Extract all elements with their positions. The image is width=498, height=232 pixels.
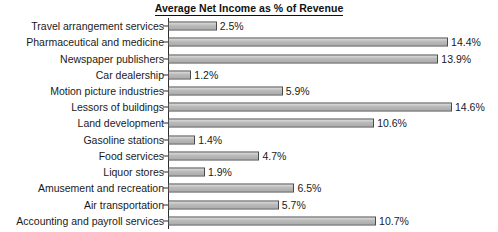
category-label: Car dealership bbox=[96, 69, 164, 80]
bar bbox=[168, 87, 283, 96]
chart-row: Liquor stores1.9% bbox=[0, 164, 498, 180]
chart-row: Pharmaceutical and medicine14.4% bbox=[0, 34, 498, 50]
bar-value-label: 2.5% bbox=[220, 21, 244, 32]
chart-title-text: Average Net Income as % of Revenue bbox=[155, 2, 344, 16]
chart-row: Gasoline stations1.4% bbox=[0, 132, 498, 148]
bar-value-label: 10.6% bbox=[377, 118, 407, 129]
chart-row: Motion picture industries5.9% bbox=[0, 83, 498, 99]
chart-row: Lessors of buildings14.6% bbox=[0, 99, 498, 115]
category-label: Pharmaceutical and medicine bbox=[26, 37, 164, 48]
chart-row: Air transportation5.7% bbox=[0, 197, 498, 213]
chart-row: Land development10.6% bbox=[0, 115, 498, 131]
category-label: Lessors of buildings bbox=[71, 102, 164, 113]
plot-area: Travel arrangement services2.5%Pharmaceu… bbox=[0, 18, 498, 230]
bar bbox=[168, 119, 374, 128]
chart-row: Travel arrangement services2.5% bbox=[0, 18, 498, 34]
bar-value-label: 6.5% bbox=[297, 183, 321, 194]
bar-group: 4.7% bbox=[168, 151, 286, 160]
bar-group: 1.2% bbox=[168, 70, 218, 79]
chart-row: Accounting and payroll services10.7% bbox=[0, 213, 498, 229]
category-label: Food services bbox=[99, 150, 164, 161]
bar-value-label: 1.9% bbox=[208, 167, 232, 178]
bar bbox=[168, 168, 205, 177]
bar bbox=[168, 70, 191, 79]
bar bbox=[168, 54, 438, 63]
bar-group: 1.4% bbox=[168, 135, 222, 144]
bar bbox=[168, 38, 448, 47]
bar-value-label: 4.7% bbox=[262, 150, 286, 161]
bar bbox=[168, 216, 376, 225]
bar bbox=[168, 103, 452, 112]
bar-value-label: 1.2% bbox=[194, 69, 218, 80]
chart-row: Food services4.7% bbox=[0, 148, 498, 164]
category-label: Accounting and payroll services bbox=[16, 215, 164, 226]
bar-group: 5.7% bbox=[168, 200, 306, 209]
bar bbox=[168, 151, 259, 160]
category-label: Amusement and recreation bbox=[38, 183, 164, 194]
chart-title: Average Net Income as % of Revenue bbox=[0, 2, 498, 14]
bar bbox=[168, 22, 217, 31]
chart-container: Average Net Income as % of Revenue Trave… bbox=[0, 0, 498, 232]
bar-group: 14.6% bbox=[168, 103, 485, 112]
bar bbox=[168, 200, 279, 209]
bar-group: 6.5% bbox=[168, 184, 321, 193]
bar-group: 1.9% bbox=[168, 168, 232, 177]
bar-value-label: 13.9% bbox=[441, 53, 471, 64]
category-label: Land development bbox=[78, 118, 164, 129]
category-label: Liquor stores bbox=[103, 167, 164, 178]
category-label: Motion picture industries bbox=[50, 86, 164, 97]
bar-group: 10.6% bbox=[168, 119, 407, 128]
bar-group: 2.5% bbox=[168, 22, 244, 31]
bar bbox=[168, 135, 195, 144]
category-label: Travel arrangement services bbox=[31, 21, 164, 32]
bar bbox=[168, 184, 294, 193]
bar-group: 14.4% bbox=[168, 38, 481, 47]
bar-value-label: 14.4% bbox=[451, 37, 481, 48]
bar-value-label: 10.7% bbox=[379, 215, 409, 226]
bar-group: 13.9% bbox=[168, 54, 471, 63]
chart-row: Newspaper publishers13.9% bbox=[0, 50, 498, 66]
category-label: Newspaper publishers bbox=[60, 53, 164, 64]
category-label: Air transportation bbox=[84, 199, 164, 210]
bar-value-label: 1.4% bbox=[198, 134, 222, 145]
bar-group: 10.7% bbox=[168, 216, 409, 225]
bar-value-label: 14.6% bbox=[455, 102, 485, 113]
chart-row: Amusement and recreation6.5% bbox=[0, 180, 498, 196]
bar-value-label: 5.7% bbox=[282, 199, 306, 210]
category-label: Gasoline stations bbox=[83, 134, 164, 145]
bar-group: 5.9% bbox=[168, 87, 310, 96]
chart-row: Car dealership1.2% bbox=[0, 67, 498, 83]
bar-value-label: 5.9% bbox=[286, 86, 310, 97]
